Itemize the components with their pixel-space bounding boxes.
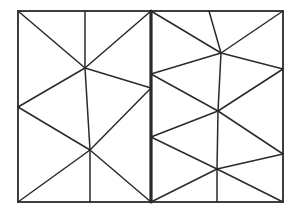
mesh-edge: [18, 150, 90, 202]
mesh-edge: [85, 68, 151, 88]
mesh-edge: [218, 69, 283, 111]
mesh-edge: [90, 88, 151, 150]
mesh-edge: [151, 74, 218, 111]
mesh-edge: [18, 68, 85, 107]
mesh-edge: [217, 169, 283, 202]
mesh-edge: [151, 111, 218, 137]
mesh-edge: [90, 150, 151, 202]
mesh-edge: [218, 53, 221, 111]
mesh-edge: [221, 11, 283, 53]
mesh-edge: [151, 53, 221, 74]
mesh-edge: [85, 11, 151, 68]
mesh-edge: [151, 169, 217, 202]
mesh-edge: [85, 68, 90, 150]
mesh-edge: [18, 11, 85, 68]
mesh-edge: [217, 111, 218, 169]
mesh-edge: [217, 154, 283, 169]
triangulation-diagram: [0, 0, 300, 218]
mesh-edge: [218, 111, 283, 154]
mesh-svg: [0, 0, 300, 218]
mesh-edge: [18, 107, 90, 150]
mesh-edge: [221, 53, 283, 69]
mesh-edge: [151, 137, 217, 169]
